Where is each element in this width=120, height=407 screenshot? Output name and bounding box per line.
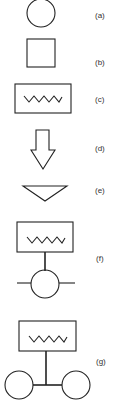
label-e: (e) xyxy=(95,186,105,195)
symbol-diagram: (a) (b) (c) (d) (e) (f) (g) xyxy=(0,0,120,407)
label-d: (d) xyxy=(95,144,105,153)
label-f: (f) xyxy=(96,254,104,263)
symbol-f-box-over-circle xyxy=(17,222,75,298)
symbol-e-inverted-triangle xyxy=(23,186,67,201)
symbol-a-circle xyxy=(27,0,55,27)
symbol-c-zigzag-box xyxy=(15,84,71,113)
symbol-b-square xyxy=(27,39,55,67)
symbol-d-down-arrow xyxy=(31,130,55,169)
label-b: (b) xyxy=(95,58,105,67)
symbol-g-box-over-two-circles xyxy=(5,321,90,399)
label-a: (a) xyxy=(95,11,105,20)
label-c: (c) xyxy=(95,95,105,104)
label-g: (g) xyxy=(96,357,106,366)
